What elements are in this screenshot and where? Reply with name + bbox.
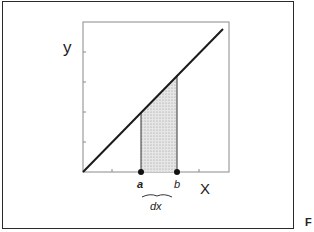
point-a	[138, 169, 144, 175]
figure-tag: F	[305, 216, 312, 228]
y-axis-label: y	[63, 38, 72, 57]
interval-label: dx	[150, 200, 162, 212]
shaded-area	[141, 75, 177, 172]
point-b-label: b	[174, 178, 180, 190]
integral-diagram: y a b X dx	[0, 0, 314, 232]
point-b	[174, 169, 180, 175]
interval-brace	[142, 195, 172, 197]
x-axis-label: X	[200, 180, 210, 197]
point-a-label: a	[137, 178, 143, 190]
